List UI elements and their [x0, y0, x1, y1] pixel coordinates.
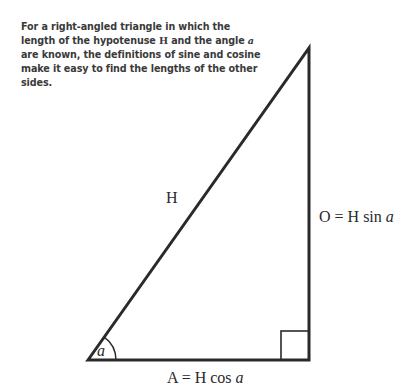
adjacent-label: A = H cos a	[167, 369, 244, 386]
angle-label: a	[97, 342, 105, 359]
right-triangle	[88, 48, 309, 360]
angle-arc	[104, 337, 116, 360]
adjacent-label-var: a	[236, 369, 244, 386]
opposite-label-prefix: O = H sin	[319, 208, 386, 225]
right-angle-marker	[281, 331, 309, 360]
opposite-label-var: a	[386, 208, 394, 225]
hypotenuse-label: H	[166, 189, 178, 206]
adjacent-label-prefix: A = H cos	[167, 369, 236, 386]
opposite-label: O = H sin a	[319, 208, 394, 225]
triangle-diagram: a H O = H sin a A = H cos a	[0, 0, 417, 390]
